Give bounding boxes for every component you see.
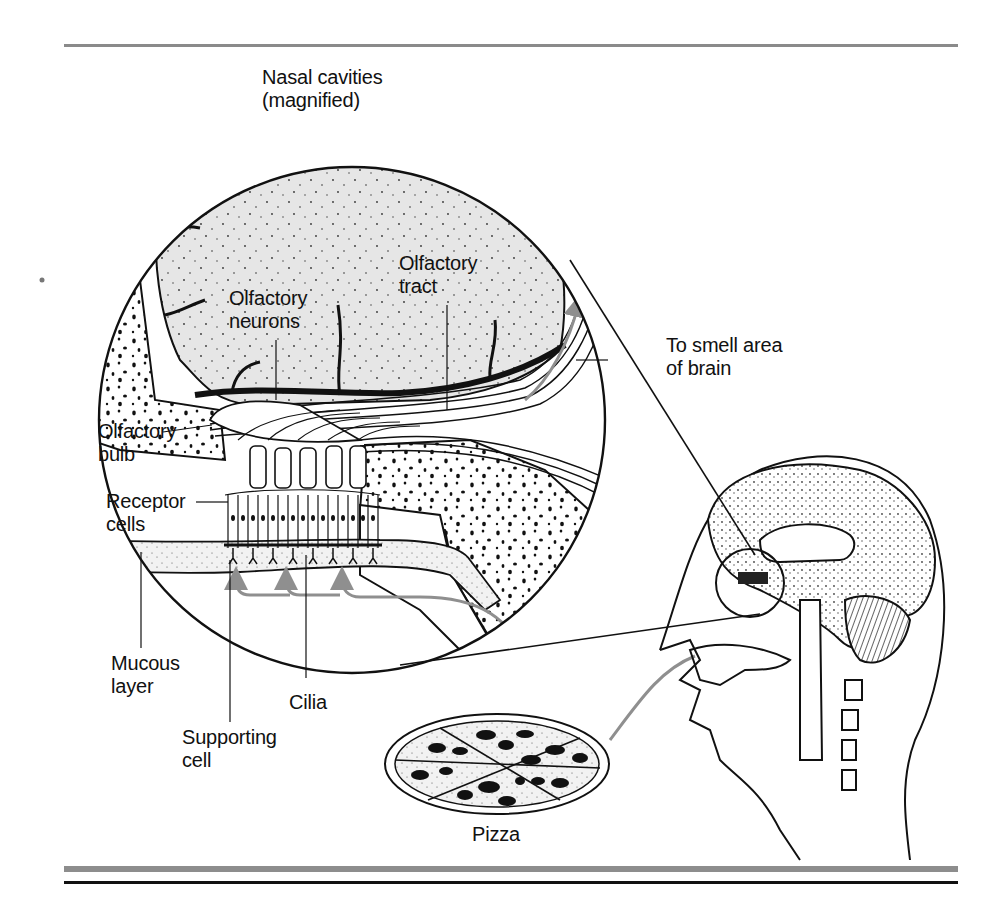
label-line: Olfactory: [98, 420, 176, 443]
label-line: Cilia: [289, 691, 327, 714]
head-sagittal: [660, 456, 944, 860]
label-line: of brain: [666, 357, 782, 380]
label-mucous-layer: Mucous layer: [111, 652, 180, 698]
label-line: Mucous: [111, 652, 180, 675]
label-cilia: Cilia: [289, 691, 327, 714]
label-line: tract: [399, 275, 477, 298]
label-to-smell-area: To smell area of brain: [666, 334, 782, 380]
label-receptor-cells: Receptor cells: [106, 490, 186, 536]
label-line: cells: [106, 513, 186, 536]
pizza-illustration: [385, 714, 609, 814]
bottom-rule-gray: [64, 866, 958, 872]
label-line: neurons: [229, 310, 307, 333]
speck: [40, 278, 45, 283]
label-olfactory-neurons: Olfactory neurons: [229, 287, 307, 333]
label-line: cell: [182, 749, 277, 772]
label-line: (magnified): [262, 89, 383, 112]
magnified-view: [90, 146, 620, 680]
label-nasal-cavities: Nasal cavities (magnified): [262, 66, 383, 112]
label-line: bulb: [98, 443, 176, 466]
label-line: layer: [111, 675, 180, 698]
label-line: Olfactory: [399, 252, 477, 275]
olfactory-region-mark: [738, 572, 768, 584]
label-line: Nasal cavities: [262, 66, 383, 89]
label-olfactory-tract: Olfactory tract: [399, 252, 477, 298]
label-pizza: Pizza: [472, 823, 520, 846]
label-line: To smell area: [666, 334, 782, 357]
label-supporting-cell: Supporting cell: [182, 726, 277, 772]
label-olfactory-bulb: Olfactory bulb: [98, 420, 176, 466]
label-line: Pizza: [472, 823, 520, 846]
label-line: Supporting: [182, 726, 277, 749]
label-line: Olfactory: [229, 287, 307, 310]
smell-arrow: [610, 656, 695, 740]
label-line: Receptor: [106, 490, 186, 513]
bottom-rule-black: [64, 881, 958, 884]
